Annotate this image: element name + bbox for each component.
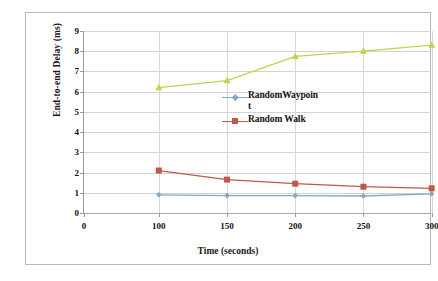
x-tick-mark-300 — [432, 213, 433, 217]
y-tick-label-2: 2 — [75, 168, 80, 177]
series-3 — [155, 42, 435, 91]
y-tick-label-6: 6 — [75, 87, 80, 96]
x-tick-mark-200 — [295, 213, 296, 217]
x-tick-label-100: 100 — [152, 222, 166, 231]
y-tick-label-7: 7 — [75, 67, 80, 76]
data-point — [224, 193, 230, 199]
x-axis-title: Time (seconds) — [26, 246, 430, 256]
data-point — [224, 177, 230, 183]
data-point — [156, 168, 162, 174]
legend-swatch-icon — [222, 116, 248, 127]
legend-item: RandomWaypoint — [222, 90, 350, 112]
legend-label: Random Walk — [248, 114, 306, 125]
data-point — [428, 42, 435, 48]
y-tick-label-9: 9 — [75, 27, 80, 36]
legend-item: Random Walk — [222, 114, 350, 127]
y-tick-label-1: 1 — [75, 188, 80, 197]
data-point — [156, 192, 162, 198]
legend-swatch-icon — [222, 92, 248, 103]
x-tick-mark-100 — [159, 213, 160, 217]
y-tick-label-3: 3 — [75, 148, 80, 157]
gridline-y-0 — [84, 213, 431, 214]
x-tick-label-200: 200 — [288, 222, 302, 231]
x-tick-label-250: 250 — [357, 222, 371, 231]
x-tick-label-0: 0 — [82, 222, 87, 231]
data-point — [361, 193, 367, 199]
chart-frame: End-to-end Delay (ms) 0123456789 0100150… — [25, 12, 431, 265]
series-line — [159, 45, 432, 87]
legend-label: RandomWaypoint — [248, 90, 318, 112]
figure-root: End-to-end Delay (ms) 0123456789 0100150… — [0, 0, 438, 281]
y-tick-label-5: 5 — [75, 107, 80, 116]
y-axis-title: End-to-end Delay (ms) — [52, 0, 62, 145]
y-tick-label-0: 0 — [75, 209, 80, 218]
data-point — [429, 185, 435, 191]
x-tick-label-300: 300 — [425, 222, 438, 231]
x-tick-label-150: 150 — [220, 222, 234, 231]
data-point — [292, 181, 298, 187]
y-tick-label-8: 8 — [75, 47, 80, 56]
series-2 — [156, 168, 435, 192]
x-tick-mark-0 — [84, 213, 85, 217]
series-1 — [156, 191, 434, 199]
chart-legend: RandomWaypointRandom Walk — [222, 90, 350, 129]
data-point — [429, 191, 435, 197]
data-point — [360, 184, 366, 190]
x-tick-mark-150 — [227, 213, 228, 217]
y-tick-label-4: 4 — [75, 128, 80, 137]
x-tick-mark-250 — [363, 213, 364, 217]
data-point — [292, 193, 298, 199]
